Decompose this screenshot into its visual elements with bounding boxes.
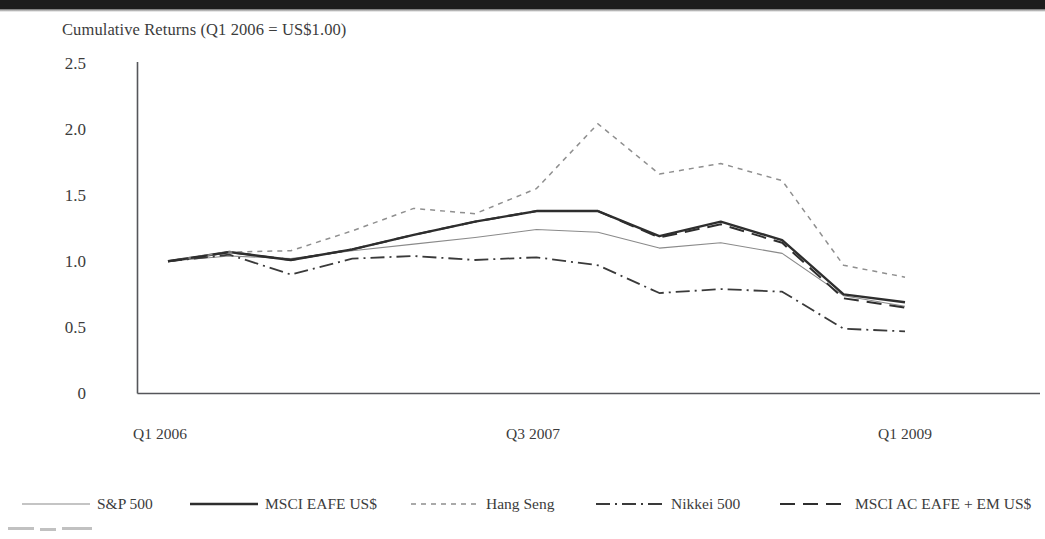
smudge-mark <box>62 527 92 530</box>
smudge-mark <box>8 527 34 530</box>
legend-swatch-sp500 <box>22 497 90 511</box>
smudge-mark <box>40 528 56 531</box>
legend-swatch-hang-seng <box>411 497 479 511</box>
page-scan-smudges <box>8 527 128 534</box>
legend-label-hang-seng: Hang Seng <box>486 495 554 513</box>
legend-label-msci-ac-eafe-em-usd: MSCI AC EAFE + EM US$ <box>855 495 1031 513</box>
chart-legend: S&P 500 MSCI EAFE US$ Hang Seng Nikkei 5… <box>0 492 1045 522</box>
legend-swatch-msci-ac-eafe-em-usd <box>780 497 848 511</box>
legend-swatch-nikkei-500 <box>596 497 664 511</box>
legend-item-sp500[interactable]: S&P 500 <box>22 492 153 516</box>
legend-label-msci-eafe-usd: MSCI EAFE US$ <box>265 495 377 513</box>
series-line-sandp-500 <box>168 230 905 307</box>
legend-item-msci-ac-eafe-em-usd[interactable]: MSCI AC EAFE + EM US$ <box>780 492 1031 516</box>
legend-item-hang-seng[interactable]: Hang Seng <box>411 492 554 516</box>
legend-swatch-msci-eafe-usd <box>190 497 258 511</box>
plot-area <box>0 0 1045 539</box>
figure: Cumulative Returns (Q1 2006 = US$1.00) 2… <box>0 0 1045 539</box>
series-line-nikkei-500 <box>168 255 905 332</box>
legend-item-nikkei-500[interactable]: Nikkei 500 <box>596 492 740 516</box>
legend-label-sp500: S&P 500 <box>97 495 153 513</box>
legend-label-nikkei-500: Nikkei 500 <box>671 495 740 513</box>
legend-item-msci-eafe-usd[interactable]: MSCI EAFE US$ <box>190 492 377 516</box>
